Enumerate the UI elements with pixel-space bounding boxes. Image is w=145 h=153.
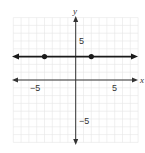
y-axis-label: y	[72, 6, 77, 16]
x-axis	[12, 78, 138, 83]
line-y-equals-3	[12, 54, 138, 60]
point-2-3	[89, 54, 94, 59]
x-axis-label: x	[139, 75, 144, 85]
y-tick-label-5: 5	[79, 36, 84, 46]
x-tick-label-neg5: −5	[30, 83, 40, 93]
point-neg4-3	[42, 54, 47, 59]
y-tick-label-neg5: −5	[79, 116, 89, 126]
coordinate-plane: x y −5 5 5 −5	[0, 0, 145, 153]
x-tick-label-5: 5	[112, 83, 117, 93]
